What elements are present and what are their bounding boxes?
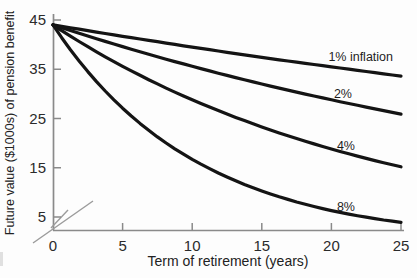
y-tick-label-15: 15: [29, 159, 46, 176]
curve-label-2-percent: 2%: [334, 87, 352, 101]
y-axis-title: Future value ($1000s) of pension benefit: [3, 10, 17, 235]
x-tick-label-20: 20: [323, 237, 340, 254]
y-tick-label-5: 5: [38, 208, 46, 225]
scan-smudge-artifact: [0, 252, 3, 266]
y-tick-label-45: 45: [29, 11, 46, 28]
curve-label-1-percent-inflation: 1% inflation: [328, 50, 393, 64]
curve-label-8-percent: 8%: [337, 200, 355, 214]
x-tick-label-5: 5: [118, 237, 126, 254]
y-axis-ticks: 453525155: [29, 11, 61, 225]
x-axis-ticks: 0510152025: [49, 223, 410, 254]
x-tick-label-15: 15: [253, 237, 270, 254]
curve-label-4-percent: 4%: [337, 139, 355, 153]
y-tick-label-35: 35: [29, 60, 46, 77]
x-axis-title: Term of retirement (years): [147, 253, 308, 269]
x-tick-label-25: 25: [393, 237, 410, 254]
x-tick-label-0: 0: [49, 237, 57, 254]
pension-inflation-line-chart: 453525155 0510152025 Term of retirement …: [0, 0, 417, 278]
y-tick-label-25: 25: [29, 110, 46, 127]
chart-canvas: 453525155 0510152025 Term of retirement …: [0, 0, 417, 278]
x-tick-label-10: 10: [184, 237, 201, 254]
